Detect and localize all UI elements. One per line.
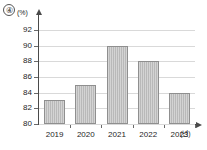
bar [75,85,96,124]
bar [44,100,65,124]
choice-number-marker: ④ [3,4,15,16]
y-tick-mark [34,77,38,78]
bar [107,46,128,124]
y-tick-label: 80 [12,120,32,128]
bar [138,61,159,124]
y-tick-label: 92 [12,26,32,34]
plot-area [39,22,195,124]
bar-chart-figure: ④ (%) 80828486889092 2019202020212022202… [0,0,207,150]
y-tick-label: 86 [12,73,32,81]
x-tick-label: 2020 [71,130,101,139]
y-tick-mark [34,93,38,94]
y-tick-mark [34,108,38,109]
x-tick-mark [164,125,165,128]
x-tick-label: 2022 [133,130,163,139]
x-tick-mark [133,125,134,128]
x-tick-mark [70,125,71,128]
x-axis-unit-label: (년) [180,130,191,138]
y-tick-mark [34,46,38,47]
x-axis-arrow-icon [196,122,202,128]
y-tick-label: 84 [12,89,32,97]
y-tick-mark [34,61,38,62]
y-tick-label: 88 [12,57,32,65]
y-tick-mark [34,124,38,125]
y-axis-unit-label: (%) [17,9,28,17]
y-tick-label: 90 [12,42,32,50]
x-tick-mark [195,125,196,128]
x-tick-label: 2019 [40,130,70,139]
y-tick-mark [34,30,38,31]
gridline [39,30,195,31]
x-tick-label: 2021 [102,130,132,139]
bar [169,93,190,124]
x-tick-mark [101,125,102,128]
y-tick-label: 82 [12,104,32,112]
gridline [39,124,195,125]
